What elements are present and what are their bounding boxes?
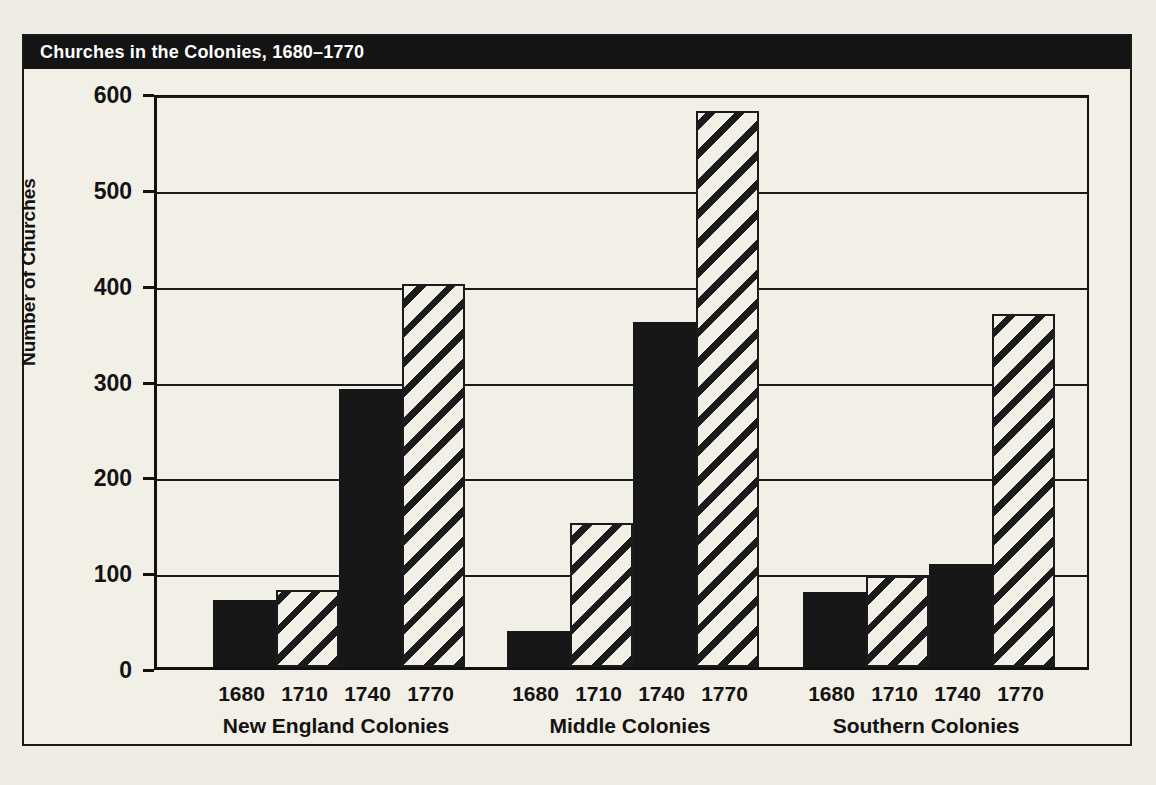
y-tick-mark-200 [143, 477, 154, 480]
x-tick-label-new-england-colonies-1680: 1680 [206, 682, 277, 706]
gridline-600 [157, 96, 1087, 98]
x-tick-label-southern-colonies-1770: 1770 [985, 682, 1056, 706]
x-tick-label-southern-colonies-1710: 1710 [859, 682, 930, 706]
y-tick-mark-100 [143, 573, 154, 576]
bar-new-england-colonies-1770 [402, 284, 465, 667]
gridline-500 [157, 192, 1087, 194]
y-tick-label-100: 100 [94, 561, 132, 588]
bar-southern-colonies-1770 [992, 314, 1055, 667]
y-tick-mark-600 [143, 94, 154, 97]
y-tick-label-500: 500 [94, 177, 132, 204]
x-tick-label-new-england-colonies-1740: 1740 [332, 682, 403, 706]
x-tick-label-middle-colonies-1770: 1770 [689, 682, 760, 706]
chart-figure: Churches in the Colonies, 1680–1770 Numb… [22, 34, 1132, 746]
gridline-300 [157, 384, 1087, 386]
y-tick-label-200: 200 [94, 465, 132, 492]
bar-middle-colonies-1740 [633, 322, 696, 667]
x-tick-label-southern-colonies-1740: 1740 [922, 682, 993, 706]
gridline-200 [157, 479, 1087, 481]
title-banner: Churches in the Colonies, 1680–1770 [24, 36, 1130, 69]
bar-middle-colonies-1680 [507, 631, 570, 667]
y-tick-mark-300 [143, 382, 154, 385]
y-tick-label-0: 0 [119, 657, 132, 684]
y-axis-label: Number of Churches [18, 178, 40, 366]
y-tick-label-300: 300 [94, 369, 132, 396]
y-tick-label-400: 400 [94, 273, 132, 300]
gridline-400 [157, 288, 1087, 290]
bar-southern-colonies-1740 [929, 564, 992, 667]
y-tick-label-600: 600 [94, 82, 132, 109]
y-tick-mark-400 [143, 286, 154, 289]
group-label-southern-colonies: Southern Colonies [750, 714, 1102, 738]
bar-southern-colonies-1710 [866, 576, 929, 667]
x-tick-label-middle-colonies-1710: 1710 [563, 682, 634, 706]
y-tick-mark-0 [143, 669, 154, 672]
bar-middle-colonies-1770 [696, 111, 759, 667]
bar-middle-colonies-1710 [570, 523, 633, 667]
x-tick-label-middle-colonies-1740: 1740 [626, 682, 697, 706]
x-tick-label-middle-colonies-1680: 1680 [500, 682, 571, 706]
y-tick-mark-500 [143, 190, 154, 193]
plot-area [154, 95, 1089, 670]
bar-new-england-colonies-1740 [339, 389, 402, 667]
x-tick-label-new-england-colonies-1710: 1710 [269, 682, 340, 706]
bar-new-england-colonies-1680 [213, 600, 276, 667]
bar-southern-colonies-1680 [803, 592, 866, 667]
x-tick-label-new-england-colonies-1770: 1770 [395, 682, 466, 706]
bar-new-england-colonies-1710 [276, 590, 339, 667]
chart-title: Churches in the Colonies, 1680–1770 [40, 42, 364, 63]
x-tick-label-southern-colonies-1680: 1680 [796, 682, 867, 706]
